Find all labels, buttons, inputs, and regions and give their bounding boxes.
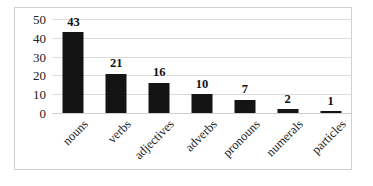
y-axis-tick-label: 50	[33, 13, 46, 26]
y-axis-tick-label: 20	[33, 69, 46, 82]
x-axis-category-labels: nounsverbsadjectivesadverbspronounsnumer…	[52, 113, 352, 171]
bar-slot: 43	[52, 19, 95, 113]
y-axis-tick-label: 30	[33, 50, 46, 63]
bar[interactable]	[63, 32, 84, 113]
y-axis-tick-label: 40	[33, 31, 46, 44]
bar-value-label: 21	[110, 57, 123, 70]
bar-chart: 50403020100 43211610721 nounsverbsadject…	[0, 0, 373, 186]
bar-value-label: 43	[67, 16, 80, 29]
y-axis-tick-label: 10	[33, 88, 46, 101]
chart-plot-frame: 50403020100 43211610721 nounsverbsadject…	[14, 7, 352, 170]
bar-value-label: 16	[153, 66, 166, 79]
y-axis-tick-label: 0	[40, 107, 47, 120]
